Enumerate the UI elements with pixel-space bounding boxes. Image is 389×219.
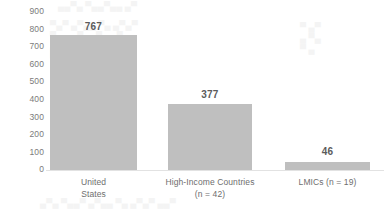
bar-high-income-countries [168,104,252,170]
y-tick-400: 400 [4,94,44,104]
category-axis-line [46,170,384,171]
bar-value-united-states: 767 [85,21,102,32]
category-label-lmics: LMICs (n = 19) [299,177,357,189]
y-tick-200: 200 [4,129,44,139]
bar-lmics [285,162,370,170]
y-tick-800: 800 [4,24,44,34]
y-tick-500: 500 [4,76,44,86]
bar-value-high-income-countries: 377 [201,89,218,100]
y-tick-0: 0 [4,164,44,174]
plot-area: 900 800 700 600 500 400 300 200 100 0 76… [0,0,389,219]
y-tick-300: 300 [4,112,44,122]
y-tick-900: 900 [4,6,44,16]
bar-chart-figure: ▄▄▀▄ ▀▄▄▀▄▄ ▄▀ ▀▄▀ ▄▀▄▄ ▀▄ ▄▀▄▀ ▀▄▄ ▄▀▄▄… [0,0,389,219]
bar-value-lmics: 46 [322,146,334,157]
bar-united-states [50,35,137,170]
category-label-high-income-countries: High-Income Countries (n = 42) [165,177,254,200]
y-tick-600: 600 [4,59,44,69]
y-tick-700: 700 [4,41,44,51]
category-label-united-states: United States [81,177,106,200]
y-tick-100: 100 [4,147,44,157]
